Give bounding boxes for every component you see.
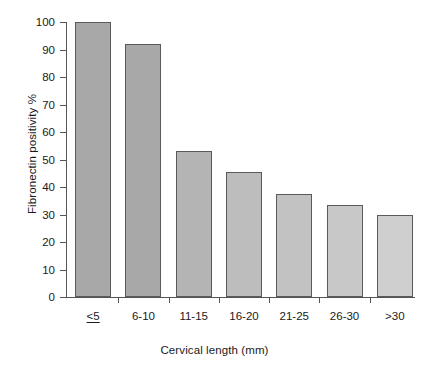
y-axis-tick-label: 90 — [42, 44, 55, 56]
y-axis-title: Fibronectin positivity % — [26, 44, 38, 264]
bar — [176, 151, 212, 297]
x-axis-tick-label: 6-10 — [132, 310, 155, 322]
y-axis-tick-label: 30 — [42, 209, 55, 221]
x-axis-tick — [219, 298, 220, 303]
y-axis-tick — [60, 132, 66, 133]
y-axis-tick — [60, 105, 66, 106]
bar — [377, 215, 413, 298]
x-axis-tick-label: 26-30 — [330, 310, 359, 322]
y-axis-tick — [60, 215, 66, 216]
y-axis-tick — [60, 160, 66, 161]
x-axis-tick — [319, 298, 320, 303]
y-axis-tick-label: 20 — [42, 236, 55, 248]
y-axis-tick — [60, 77, 66, 78]
bar — [75, 22, 111, 297]
x-axis-tick-label: 21-25 — [280, 310, 309, 322]
y-axis-line — [66, 22, 67, 298]
bar — [327, 205, 363, 297]
y-axis-tick-label: 40 — [42, 181, 55, 193]
x-axis-tick-label: 16-20 — [229, 310, 258, 322]
x-axis-tick — [169, 298, 170, 303]
y-axis-tick-label: 10 — [42, 264, 55, 276]
x-axis-title: Cervical length (mm) — [0, 344, 429, 356]
y-axis-tick-label: 70 — [42, 99, 55, 111]
bar — [276, 194, 312, 297]
bar — [226, 172, 262, 297]
x-axis-tick-label: <5 — [87, 310, 100, 322]
y-axis-tick-label: 100 — [36, 16, 55, 28]
bars-layer — [68, 22, 420, 297]
y-axis-tick — [60, 187, 66, 188]
plot-area: 0102030405060708090100 <56-1011-1516-202… — [68, 22, 420, 297]
bar-chart: Fibronectin positivity % 010203040506070… — [0, 0, 429, 377]
x-axis-tick-label: 11-15 — [179, 310, 208, 322]
y-axis-tick — [60, 242, 66, 243]
x-axis-tick — [370, 298, 371, 303]
y-axis-tick-label: 0 — [49, 291, 55, 303]
bar — [125, 44, 161, 297]
y-axis-tick — [60, 297, 66, 298]
x-axis-tick — [118, 298, 119, 303]
x-axis-tick — [269, 298, 270, 303]
y-axis-tick — [60, 50, 66, 51]
y-axis-tick-label: 80 — [42, 71, 55, 83]
y-axis-tick — [60, 22, 66, 23]
y-axis-tick-label: 50 — [42, 154, 55, 166]
y-axis-tick — [60, 270, 66, 271]
y-axis-tick-label: 60 — [42, 126, 55, 138]
x-axis-tick-label: >30 — [385, 310, 405, 322]
